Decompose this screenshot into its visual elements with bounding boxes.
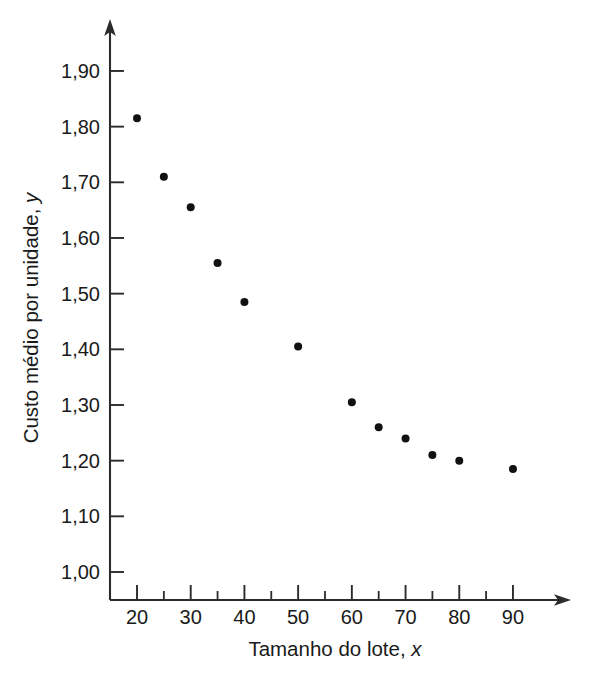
data-point <box>455 457 463 465</box>
scatter-chart-canvas: 1,001,101,201,301,401,501,601,701,801,90… <box>0 0 607 684</box>
data-point <box>509 465 517 473</box>
y-axis-tick-label: 1,00 <box>61 561 100 583</box>
data-point <box>187 203 195 211</box>
x-axis-tick-label: 70 <box>394 606 416 628</box>
x-axis-tick-label: 80 <box>448 606 470 628</box>
scatter-plot-figure: 1,001,101,201,301,401,501,601,701,801,90… <box>0 0 607 684</box>
data-point <box>133 114 141 122</box>
y-axis-tick-label: 1,50 <box>61 283 100 305</box>
y-axis-tick-label: 1,60 <box>61 227 100 249</box>
y-axis-tick-label: 1,80 <box>61 116 100 138</box>
x-axis-minor-tick-group <box>164 591 486 600</box>
x-axis-tick-label: 90 <box>502 606 524 628</box>
y-axis-tick-label: 1,40 <box>61 338 100 360</box>
data-point <box>428 451 436 459</box>
x-axis-title: Tamanho do lote, x <box>248 637 422 660</box>
x-axis-tick-label: 40 <box>233 606 255 628</box>
y-axis-tick-label: 1,70 <box>61 171 100 193</box>
data-point <box>294 343 302 351</box>
x-axis-tick-label: 30 <box>180 606 202 628</box>
y-axis-tick-label: 1,30 <box>61 394 100 416</box>
x-axis-tick-label: 60 <box>341 606 363 628</box>
data-point <box>402 434 410 442</box>
data-point <box>160 173 168 181</box>
y-axis-tick-label: 1,10 <box>61 505 100 527</box>
x-axis-tick-label-group: 2030405060708090 <box>126 606 524 628</box>
y-axis-tick-group <box>110 71 124 572</box>
x-axis-tick-label: 20 <box>126 606 148 628</box>
data-point <box>375 423 383 431</box>
data-point <box>348 398 356 406</box>
x-axis-tick-label: 50 <box>287 606 309 628</box>
y-axis-tick-label-group: 1,001,101,201,301,401,501,601,701,801,90 <box>61 60 100 583</box>
y-axis-tick-label: 1,20 <box>61 450 100 472</box>
data-point <box>240 298 248 306</box>
data-point <box>214 259 222 267</box>
y-axis-tick-label: 1,90 <box>61 60 100 82</box>
data-point-group <box>133 114 517 473</box>
y-axis-title: Custo médio por unidade, y <box>19 191 42 443</box>
